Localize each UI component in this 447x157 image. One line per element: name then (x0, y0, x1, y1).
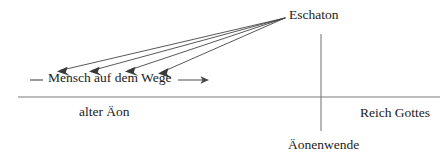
label-aeonenwende: Äonenwende (288, 138, 359, 152)
eschaton-arrow-3 (125, 18, 285, 76)
eschaton-arrow-4 (158, 18, 285, 78)
label-reich-gottes: Reich Gottes (360, 106, 430, 120)
label-eschaton: Eschaton (289, 8, 339, 22)
eschaton-arrow-1 (57, 18, 285, 76)
eschaton-arrow-2 (89, 18, 285, 76)
way-right-arrow (178, 76, 209, 84)
label-mensch-auf-dem-wege: Mensch auf dem Wege (48, 71, 172, 85)
label-alter-aeon: alter Äon (79, 105, 130, 119)
diagram-canvas: Eschaton Mensch auf dem Wege alter Äon R… (0, 0, 447, 157)
